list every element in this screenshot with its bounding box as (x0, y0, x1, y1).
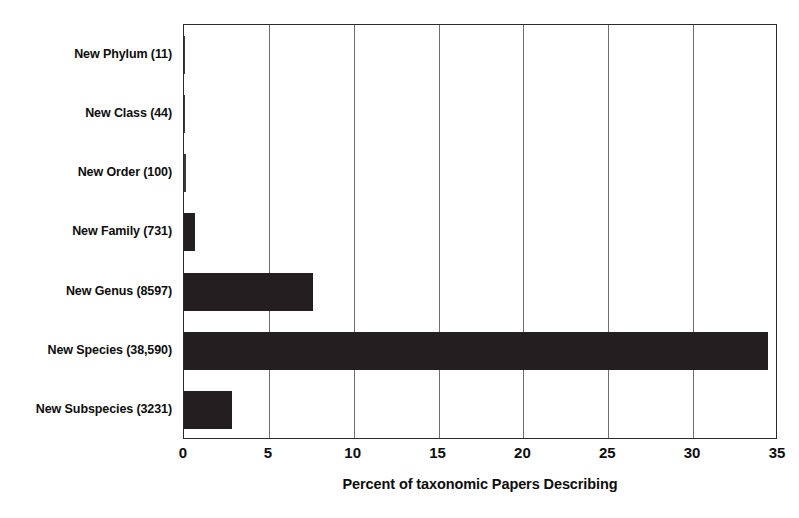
bar-row (184, 144, 776, 203)
bar-row (184, 381, 776, 440)
bar-chart: New Phylum (11) New Class (44) New Order… (0, 0, 799, 518)
gridline-35 (777, 25, 778, 438)
bar-row (184, 262, 776, 321)
x-tick-20: 20 (514, 444, 531, 461)
category-label-new-family: New Family (731) (72, 202, 172, 261)
category-label-new-class: New Class (44) (85, 83, 172, 142)
x-axis-title: Percent of taxonomic Papers Describing (183, 476, 777, 492)
x-axis-tick-labels: 0 5 10 15 20 25 30 35 (183, 444, 777, 470)
bar-new-genus (184, 273, 313, 311)
bars-layer (184, 25, 776, 438)
category-axis: New Phylum (11) New Class (44) New Order… (0, 24, 178, 439)
bar-new-family (184, 213, 195, 251)
bar-new-subspecies (184, 391, 232, 429)
bar-new-order (184, 154, 186, 192)
bar-row (184, 321, 776, 380)
bar-row (184, 203, 776, 262)
x-tick-35: 35 (769, 444, 786, 461)
bar-row (184, 84, 776, 143)
category-label-new-order: New Order (100) (78, 143, 172, 202)
bar-row (184, 25, 776, 84)
x-tick-5: 5 (264, 444, 272, 461)
x-tick-10: 10 (344, 444, 361, 461)
category-label-new-species: New Species (38,590) (48, 320, 172, 379)
category-label-new-subspecies: New Subspecies (3231) (36, 380, 172, 439)
x-tick-25: 25 (599, 444, 616, 461)
category-label-new-phylum: New Phylum (11) (74, 24, 172, 83)
x-tick-0: 0 (179, 444, 187, 461)
bar-new-class (184, 95, 185, 133)
category-label-new-genus: New Genus (8597) (66, 261, 172, 320)
x-tick-15: 15 (429, 444, 446, 461)
x-tick-30: 30 (684, 444, 701, 461)
plot-area (183, 24, 777, 439)
bar-new-species (184, 332, 768, 370)
